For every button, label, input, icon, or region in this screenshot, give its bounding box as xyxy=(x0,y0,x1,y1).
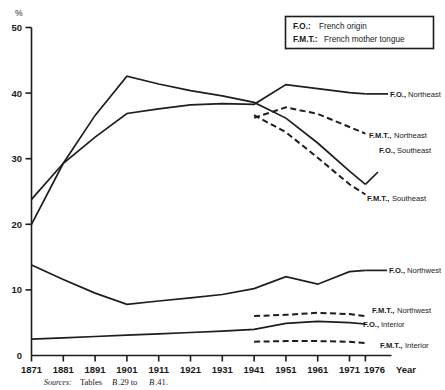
annotation-fmt-northwest-abbr: F.M.T., xyxy=(372,306,394,315)
series-fmt-northwest xyxy=(254,313,365,316)
annotation-fo-southeast-abbr: F.O., xyxy=(379,146,395,155)
y-tick-label-40: 40 xyxy=(11,88,22,99)
x-tick-label-1951: 1951 xyxy=(275,364,297,375)
x-tick-label-1971: 1971 xyxy=(339,364,361,375)
annotation-fmt-northwest-region: Northwest xyxy=(397,306,432,315)
x-tick-label-1921: 1921 xyxy=(180,364,202,375)
annotation-fmt-northeast: F.M.T., Northeast xyxy=(369,131,428,140)
y-tick-label-50: 50 xyxy=(11,22,22,33)
x-tick-label-1976: 1976 xyxy=(364,364,385,375)
annotation-fo-interior-abbr: F.O., xyxy=(363,320,379,329)
annotation-fmt-interior-abbr: F.M.T., xyxy=(380,341,402,350)
legend: F.O.: French origin F.M.T.: French mothe… xyxy=(286,17,434,49)
annotation-fo-interior: F.O., Interior xyxy=(363,320,405,329)
leader-fo-southeast xyxy=(365,172,378,184)
y-tick-label-30: 30 xyxy=(11,153,22,164)
annotation-fmt-interior: F.M.T., Interior xyxy=(380,341,429,350)
x-tick-label-1931: 1931 xyxy=(212,364,234,375)
series-fo-interior xyxy=(32,321,366,339)
x-axis xyxy=(32,356,392,362)
source-table-b-first: B xyxy=(112,377,117,387)
y-axis-unit-label: % xyxy=(15,8,23,18)
x-tick-label-1941: 1941 xyxy=(244,364,266,375)
x-tick-label-1901: 1901 xyxy=(116,364,138,375)
source-label: Sources: xyxy=(44,378,72,387)
annotation-fo-southeast-region: Southeast xyxy=(397,146,432,155)
x-tick-label-1911: 1911 xyxy=(148,364,169,375)
annotation-fmt-southeast: F.M.T., Southeast xyxy=(367,194,427,203)
legend-fo-abbr: F.O.: xyxy=(293,22,311,31)
source-num-second: .41. xyxy=(155,377,168,387)
series-fmt-interior xyxy=(254,341,365,343)
series-fo-northwest xyxy=(32,265,366,304)
source-text-pre: Tables xyxy=(80,377,102,387)
annotation-fmt-northeast-abbr: F.M.T., xyxy=(369,131,391,140)
annotation-fmt-southeast-region: Southeast xyxy=(392,194,427,203)
annotation-fmt-southeast-abbr: F.M.T., xyxy=(367,194,389,203)
annotation-fo-northeast-region: Northeast xyxy=(408,90,442,99)
x-tick-label-1881: 1881 xyxy=(53,364,75,375)
source-num-first: .29 to xyxy=(118,377,137,387)
y-axis xyxy=(26,28,32,356)
annotation-fo-northwest: F.O., Northwest xyxy=(389,266,442,275)
annotation-fo-interior-region: Interior xyxy=(381,320,405,329)
annotation-fo-northwest-abbr: F.O., xyxy=(389,266,405,275)
y-tick-label-0: 0 xyxy=(17,350,22,361)
source-table-b-second: B xyxy=(149,377,154,387)
annotation-fo-northeast-abbr: F.O., xyxy=(390,90,406,99)
chart-svg: % 50 40 30 20 10 0 1871 1881 1891 1901 1… xyxy=(0,0,445,390)
annotation-fmt-northwest: F.M.T., Northwest xyxy=(372,306,432,315)
source-note: Sources: Tables B .29 to B .41. xyxy=(44,377,168,387)
annotation-fo-northwest-region: Northwest xyxy=(407,266,442,275)
y-tick-label-10: 10 xyxy=(11,284,22,295)
annotation-fmt-northeast-region: Northeast xyxy=(394,131,428,140)
chart-figure: % 50 40 30 20 10 0 1871 1881 1891 1901 1… xyxy=(0,0,445,390)
annotation-fo-southeast: F.O., Southeast xyxy=(379,146,432,155)
annotation-fmt-interior-region: Interior xyxy=(405,341,429,350)
legend-fmt-desc: French mother tongue xyxy=(324,35,405,44)
annotation-fo-northeast: F.O., Northeast xyxy=(390,90,442,99)
y-tick-label-20: 20 xyxy=(11,219,22,230)
x-tick-label-1871: 1871 xyxy=(21,364,43,375)
x-tick-label-1891: 1891 xyxy=(85,364,107,375)
legend-fo-desc: French origin xyxy=(319,22,367,31)
x-tick-label-1961: 1961 xyxy=(307,364,329,375)
x-axis-title: Year xyxy=(396,364,416,375)
legend-fmt-abbr: F.M.T.: xyxy=(293,35,318,44)
series-fo-southeast xyxy=(32,76,366,224)
